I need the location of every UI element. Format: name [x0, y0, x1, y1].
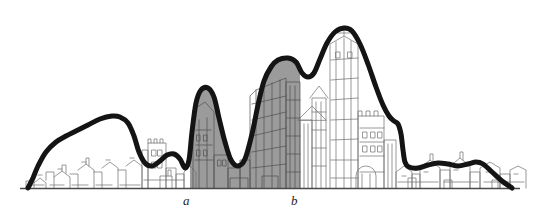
marker-label-a: a [183, 194, 190, 207]
skyline-profile-figure: a b [0, 0, 544, 222]
skyline-diagram-svg [0, 0, 544, 222]
marker-label-b: b [291, 194, 298, 207]
skyline-left-town [26, 158, 142, 188]
